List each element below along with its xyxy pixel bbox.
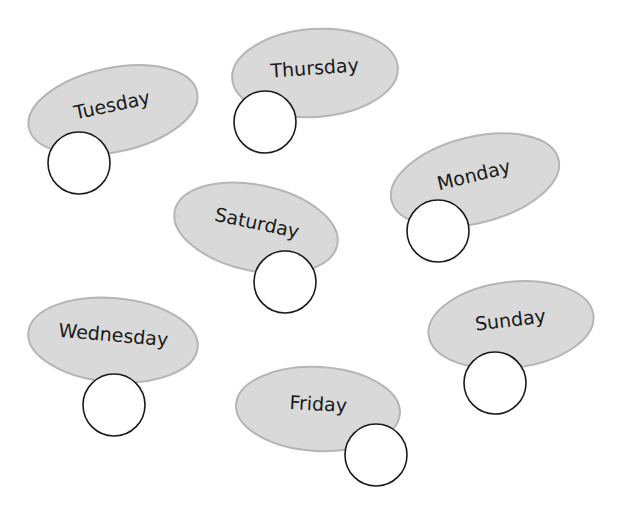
- answer-circle[interactable]: [464, 352, 526, 414]
- answer-circle[interactable]: [83, 374, 145, 436]
- answer-circle[interactable]: [254, 251, 316, 313]
- day-label: Friday: [289, 391, 348, 416]
- day-item-saturday: Saturday: [166, 169, 346, 313]
- day-item-wednesday: Wednesday: [25, 291, 202, 436]
- answer-circle[interactable]: [234, 91, 296, 153]
- day-item-monday: Monday: [381, 117, 569, 262]
- answer-circle[interactable]: [407, 200, 469, 262]
- answer-circle[interactable]: [345, 424, 407, 486]
- days-diagram: Tuesday Thursday Monday Saturday Wednesd…: [0, 0, 620, 512]
- answer-circle[interactable]: [48, 132, 110, 194]
- day-item-sunday: Sunday: [423, 272, 598, 414]
- day-item-thursday: Thursday: [229, 23, 401, 153]
- day-item-tuesday: Tuesday: [20, 51, 206, 194]
- day-item-friday: Friday: [234, 363, 407, 486]
